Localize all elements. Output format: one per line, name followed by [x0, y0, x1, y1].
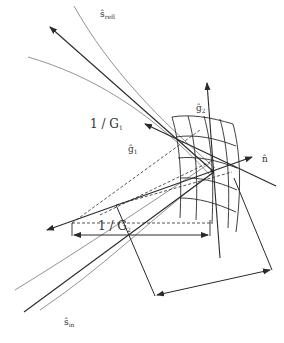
- inv-g1-text: 1 / G: [90, 117, 119, 131]
- label-n: n̂: [262, 155, 268, 164]
- inv-g2-text: 1 / G: [98, 219, 127, 233]
- inv-g2-sub: 2: [127, 226, 131, 233]
- label-inv-g1: 1 / G1: [90, 118, 123, 131]
- n-base: n̂: [262, 154, 268, 164]
- projection-width-arrow: [157, 270, 270, 295]
- g2-sub: 2: [202, 107, 206, 114]
- g1-sub: 1: [134, 148, 138, 155]
- diagram-canvas: [0, 0, 284, 343]
- inv-g1-sub: 1: [119, 124, 123, 131]
- label-g2: ĝ2: [196, 104, 206, 114]
- s-refl-sub: refl: [105, 13, 115, 20]
- label-inv-g2: 1 / G2: [98, 220, 131, 233]
- label-s-refl: ŝrefl: [100, 10, 115, 20]
- s-in-sub: in: [69, 321, 75, 328]
- center-point: [210, 169, 213, 172]
- label-s-in: ŝin: [64, 318, 74, 328]
- projection-rectangle: [116, 178, 272, 296]
- incident-ray: [24, 172, 214, 312]
- label-g1: ĝ1: [128, 145, 138, 155]
